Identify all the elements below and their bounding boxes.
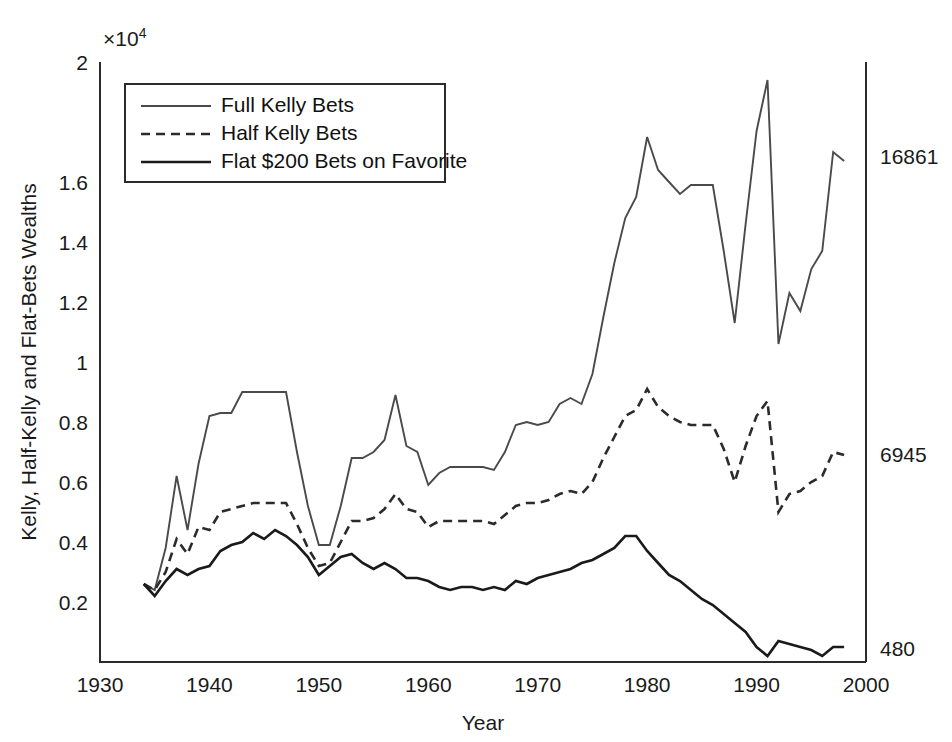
y-tick-label-1_6: 1.6 <box>59 171 88 194</box>
y-tick-label-0_4: 0.4 <box>59 531 89 554</box>
chart-page: ×1040.20.40.60.811.21.41.621930194019501… <box>0 0 952 742</box>
x-tick-label-1950: 1950 <box>295 673 342 696</box>
right-value-label-16861: 16861 <box>880 145 938 168</box>
y-tick-label-1_4: 1.4 <box>59 231 89 254</box>
x-tick-label-1980: 1980 <box>624 673 671 696</box>
y-tick-label-0_6: 0.6 <box>59 471 88 494</box>
y-tick-label-1_2: 1.2 <box>59 291 88 314</box>
legend-label-0: Full Kelly Bets <box>221 93 354 116</box>
x-tick-label-1930: 1930 <box>77 673 124 696</box>
y-axis-exponent-label: ×104 <box>103 25 147 50</box>
y-tick-label-0_2: 0.2 <box>59 591 88 614</box>
line-chart-figure: ×1040.20.40.60.811.21.41.621930194019501… <box>0 0 952 742</box>
series-line-half-kelly-bets <box>144 389 844 590</box>
legend-label-2: Flat $200 Bets on Favorite <box>221 149 467 172</box>
legend-label-1: Half Kelly Bets <box>221 121 358 144</box>
x-tick-label-2000: 2000 <box>843 673 890 696</box>
x-tick-label-1940: 1940 <box>186 673 233 696</box>
x-tick-label-1970: 1970 <box>514 673 561 696</box>
y-tick-label-2: 2 <box>76 51 88 74</box>
x-axis-title: Year <box>462 711 504 734</box>
x-tick-label-1990: 1990 <box>733 673 780 696</box>
svg-text:×104: ×104 <box>103 25 147 50</box>
right-value-label-480: 480 <box>880 637 915 660</box>
right-value-label-6945: 6945 <box>880 443 927 466</box>
x-tick-label-1960: 1960 <box>405 673 452 696</box>
y-tick-label-1: 1 <box>76 351 88 374</box>
y-tick-label-0_8: 0.8 <box>59 411 88 434</box>
series-line-flat-200-bets-on-favorite <box>144 530 844 656</box>
y-axis-title: Kelly, Half-Kelly and Flat-Bets Wealths <box>17 183 40 541</box>
